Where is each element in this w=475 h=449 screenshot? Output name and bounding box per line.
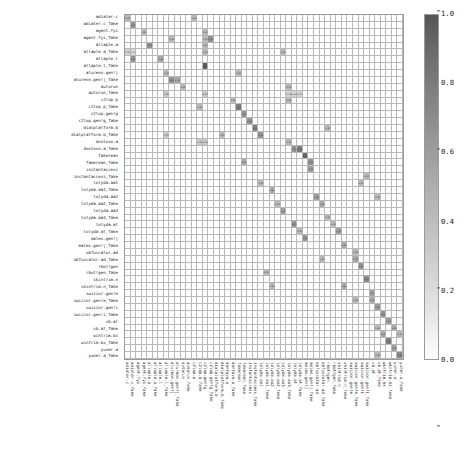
x-axis-label: vb.at_fake [376, 362, 380, 387]
x-axis-label: lolyda.aa2 [270, 362, 274, 387]
y-axis-label: obfuscator.ad_fake [0, 256, 121, 263]
x-axis-label: swizzor.gen!e [348, 362, 352, 394]
heatmap-cell-value: 0.50 [292, 223, 297, 225]
y-axis-label: allaple.a [0, 42, 121, 49]
heatmap-cell-value: 0.50 [308, 161, 313, 163]
heatmap-cell-value: 0.50 [381, 313, 386, 315]
heatmap-cell-value: 0.50 [242, 113, 247, 115]
colorbar-tick-label: 0.2 [441, 287, 454, 294]
x-axis-label: swizzor.gen!i_fake [365, 362, 369, 406]
x-axis-label: allaple.l [158, 362, 162, 384]
x-axis-label: autorun_fake [186, 362, 190, 392]
x-axis-labels: adialer.cadialer.c_fakeagent.fyiagent.fy… [124, 362, 404, 448]
heatmap-cell-value: 0.60 [253, 127, 258, 129]
x-axis-label: skintrim.n_fake [343, 362, 347, 399]
x-axis-label: allaple.l_fake [164, 362, 168, 397]
heatmap-cell-value: 0.33 [375, 354, 380, 356]
y-axis-label: rbot!gen_fake [0, 270, 121, 277]
y-axis-label: c2lop.p_fake [0, 104, 121, 111]
x-axis-label: lolyda.aa3 [281, 362, 285, 387]
heatmap-cell-value: 0.60 [386, 340, 391, 342]
y-axis-label: c2lop.gen!g [0, 111, 121, 118]
heatmap-cell-value: 0.45 [336, 230, 341, 232]
heatmap-cell-value: 0.40 [175, 79, 180, 81]
heatmap-cell [397, 345, 403, 352]
heatmap-cell-value: 0.33 [264, 271, 269, 273]
x-axis-label: skintrim.n [337, 362, 341, 387]
heatmap-cell-value: 0.45 [375, 306, 380, 308]
heatmap-cell-value: 0.33 [286, 86, 291, 88]
x-axis-label: lolyda.aa3_fake [287, 362, 291, 399]
heatmap-cell-value: 0.33 [353, 299, 358, 301]
y-axis-label: lolyda.at [0, 222, 121, 229]
heatmap-cell-value: 0.33 [219, 134, 224, 136]
heatmap-cell-value: 0.33 [353, 251, 358, 253]
heatmap-cell [397, 153, 403, 160]
x-axis-label: obfuscator.ad [315, 362, 319, 394]
heatmap-cell-value: 0.33 [231, 99, 236, 101]
heatmap-cell-value: 0.17 [131, 51, 136, 53]
heatmap-cell-value: 0.33 [375, 196, 380, 198]
y-axis-label: vb.at_fake [0, 325, 121, 332]
heatmap-cell [397, 146, 403, 153]
heatmap-cell-value: 0.40 [353, 258, 358, 260]
heatmap-cell-value: 0.40 [342, 285, 347, 287]
heatmap-cell-value: 0.33 [169, 38, 174, 40]
heatmap-cell [397, 111, 403, 118]
heatmap-cell-value: 0.60 [297, 148, 302, 150]
x-axis-label: autorun [181, 362, 185, 379]
heatmap-cell [397, 304, 403, 311]
y-axis-label: adialer.c [0, 14, 121, 21]
heatmap-cell-value: 0.70 [303, 154, 308, 156]
heatmap-cell-value: 0.33 [270, 285, 275, 287]
heatmap-cell [397, 98, 403, 105]
heatmap-cell [397, 70, 403, 77]
x-axis-label: malex.gen!j_fake [309, 362, 313, 401]
x-axis-label: malex.gen!j [304, 362, 308, 389]
heatmap-cell-value: 0.33 [320, 258, 325, 260]
colorbar-tick-label: 0.0 [441, 356, 454, 363]
heatmap-cell-value: 0.33 [297, 230, 302, 232]
heatmap-cell [397, 36, 403, 43]
heatmap-cell [397, 256, 403, 263]
heatmap-cell [397, 104, 403, 111]
y-axis-label: swizzor.gen!e_fake [0, 298, 121, 305]
heatmap-cell [397, 84, 403, 91]
heatmap-cell-value: 0.55 [397, 354, 402, 356]
y-axis-label: yuner.a [0, 346, 121, 353]
heatmap-cell [397, 242, 403, 249]
heatmap-cell [397, 276, 403, 283]
y-axis-labels: adialer.cadialer.c_fakeagent.fyiagent.fy… [0, 14, 121, 360]
heatmap-cell [397, 22, 403, 29]
heatmap-cell [397, 159, 403, 166]
heatmap-cell [397, 228, 403, 235]
heatmap-cell [397, 49, 403, 56]
y-axis-label: lolyda.aa1_fake [0, 187, 121, 194]
heatmap-cell: 0.55 [397, 352, 403, 359]
x-axis-label: alureon.gen!j_fake [175, 362, 179, 406]
heatmap-cell-value: 0.40 [342, 244, 347, 246]
x-axis-label: lolyda.at_fake [298, 362, 302, 397]
x-axis-label: c2lop.p [192, 362, 196, 379]
heatmap-cell-value: 0.33 [364, 175, 369, 177]
heatmap-cell-value: 0.75 [203, 65, 208, 67]
heatmap-cell-value: 0.33 [286, 141, 291, 143]
x-axis-label: lolyda.aa2_fake [276, 362, 280, 399]
heatmap-cell-value: 0.50 [131, 24, 136, 26]
x-axis-label: lolyda.at [292, 362, 296, 384]
heatmap-cell-value: 0.25 [164, 93, 169, 95]
x-axis-label: dontovo.a_fake [231, 362, 235, 397]
x-axis-label: agent.fyi_fake [141, 362, 145, 397]
x-axis-label: yuner.a_fake [399, 362, 403, 392]
heatmap-cell-value: 0.50 [169, 79, 174, 81]
heatmap-cell [397, 194, 403, 201]
y-axis-label: vb.at [0, 319, 121, 326]
heatmap-cell-value: 0.50 [303, 237, 308, 239]
x-axis-label: rbot!gen [326, 362, 330, 382]
heatmap-cell-value: 0.50 [208, 38, 213, 40]
heatmap-cell-value: 0.20 [297, 93, 302, 95]
heatmap-cell [397, 15, 403, 22]
y-axis-label: rbot!gen [0, 263, 121, 270]
heatmap-cell [397, 263, 403, 270]
heatmap-cell [397, 249, 403, 256]
